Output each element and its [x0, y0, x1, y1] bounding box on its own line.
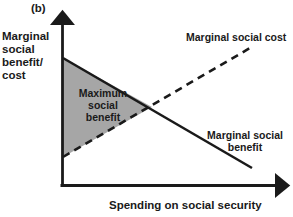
y-axis-label: Marginal social benefit/ cost — [2, 30, 49, 82]
marginal-social-benefit-label: Marginal social benefit — [205, 130, 285, 154]
figure-panel-b: (b) Marginal social benefit/ cost Maximu… — [0, 0, 293, 217]
maximum-social-benefit-label: Maximum social benefit — [69, 88, 137, 123]
panel-label: (b) — [31, 2, 46, 15]
x-axis-label: Spending on social security — [109, 199, 262, 212]
marginal-social-cost-label: Marginal social cost — [186, 32, 286, 44]
